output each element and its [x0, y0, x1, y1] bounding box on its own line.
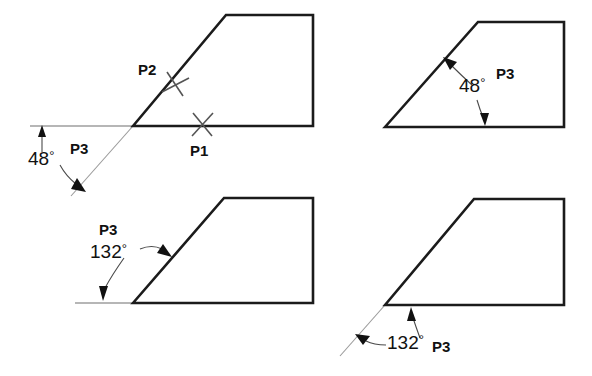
- degree-symbol-bl: °: [122, 241, 127, 256]
- technical-drawing-svg: [0, 0, 592, 376]
- label-angle-bl-value: 132: [90, 241, 122, 262]
- label-p3-tr: P3: [496, 66, 514, 81]
- arrow-head-bl-down: [99, 286, 108, 301]
- degree-symbol-br: °: [419, 332, 424, 347]
- degree-symbol-tl: °: [49, 148, 54, 163]
- arrow-head-tr-edge: [443, 57, 457, 70]
- arrow-head-tl-up: [38, 125, 46, 137]
- cross-marker-p1[interactable]: [192, 113, 213, 136]
- label-angle-br: 132°: [387, 333, 424, 352]
- label-p1: P1: [190, 143, 208, 158]
- label-angle-br-value: 132: [387, 332, 419, 353]
- trapezoid-shape-br: [385, 199, 564, 305]
- label-p3-bl: P3: [99, 222, 117, 237]
- degree-symbol-tr: °: [480, 75, 485, 90]
- label-p3-br: P3: [432, 339, 450, 354]
- panel-top-left-geometry: [30, 15, 313, 196]
- arrow-head-br-base: [407, 307, 416, 321]
- drawing-canvas: P2 P1 48° P3 48° P3 P3 132° 132° P3: [0, 0, 592, 376]
- label-p2: P2: [138, 62, 156, 77]
- label-angle-tl: 48°: [28, 149, 54, 168]
- label-p3-tl: P3: [70, 141, 88, 156]
- leader-line-bl-edge: [140, 247, 162, 250]
- arrow-head-tl-down: [71, 178, 86, 192]
- label-angle-tr: 48°: [459, 76, 485, 95]
- leader-line-br-constr: [366, 341, 386, 345]
- leader-line-tl-constr: [60, 165, 76, 184]
- label-angle-tl-value: 48: [28, 148, 49, 169]
- arrow-head-tr-base: [480, 113, 489, 126]
- label-angle-bl: 132°: [90, 242, 127, 261]
- construction-line-br: [340, 305, 385, 356]
- arrow-head-br-constr: [355, 334, 370, 345]
- label-angle-tr-value: 48: [459, 75, 480, 96]
- panel-bottom-right-geometry: [340, 199, 564, 356]
- leader-line-bl-ref: [105, 258, 124, 288]
- trapezoid-shape-tl: [133, 15, 313, 126]
- arrow-head-bl-edge: [157, 244, 172, 257]
